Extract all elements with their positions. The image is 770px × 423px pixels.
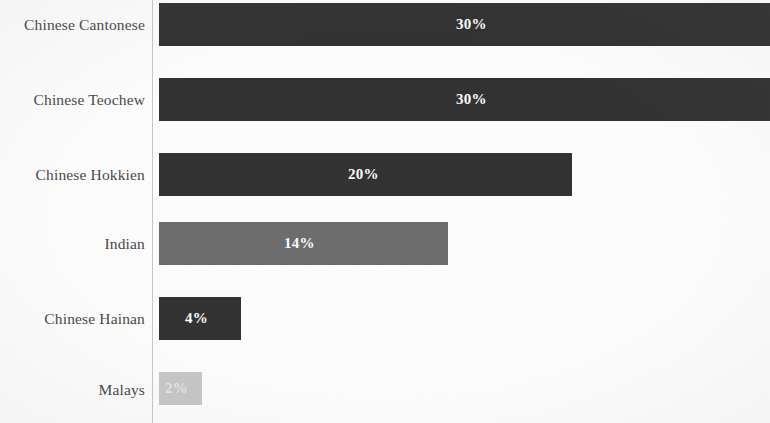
bar-chinese-hainan[interactable]: 4% bbox=[159, 297, 241, 340]
bar-malays[interactable]: 2% bbox=[159, 372, 202, 405]
bar-row: Indian 14% bbox=[0, 222, 770, 265]
bar-indian[interactable]: 14% bbox=[159, 222, 448, 265]
bar-chinese-cantonese[interactable]: 30% bbox=[159, 3, 770, 46]
page-vignette bbox=[0, 0, 770, 423]
bar-row: Chinese Teochew 30% bbox=[0, 78, 770, 121]
category-label: Chinese Hokkien bbox=[0, 167, 145, 183]
category-label: Chinese Hainan bbox=[0, 311, 145, 327]
bar-value-label: 2% bbox=[165, 381, 188, 396]
bar-row: Malays 2% bbox=[0, 372, 770, 405]
category-label: Indian bbox=[0, 236, 145, 252]
category-label: Malays bbox=[0, 382, 145, 398]
category-label: Chinese Cantonese bbox=[0, 17, 145, 33]
bar-chinese-teochew[interactable]: 30% bbox=[159, 78, 770, 121]
category-axis-line bbox=[152, 0, 153, 423]
scan-grain-overlay bbox=[0, 0, 770, 423]
bar-row: Chinese Hainan 4% bbox=[0, 297, 770, 340]
bar-chinese-hokkien[interactable]: 20% bbox=[159, 153, 572, 196]
bar-value-label: 30% bbox=[456, 17, 487, 32]
category-label: Chinese Teochew bbox=[0, 92, 145, 108]
bar-value-label: 30% bbox=[456, 92, 487, 107]
bar-chart: Chinese Cantonese 30% Chinese Teochew 30… bbox=[0, 0, 770, 423]
bar-row: Chinese Cantonese 30% bbox=[0, 3, 770, 46]
bar-value-label: 4% bbox=[185, 311, 208, 326]
bar-value-label: 20% bbox=[348, 167, 379, 182]
bar-value-label: 14% bbox=[284, 236, 315, 251]
bar-row: Chinese Hokkien 20% bbox=[0, 153, 770, 196]
